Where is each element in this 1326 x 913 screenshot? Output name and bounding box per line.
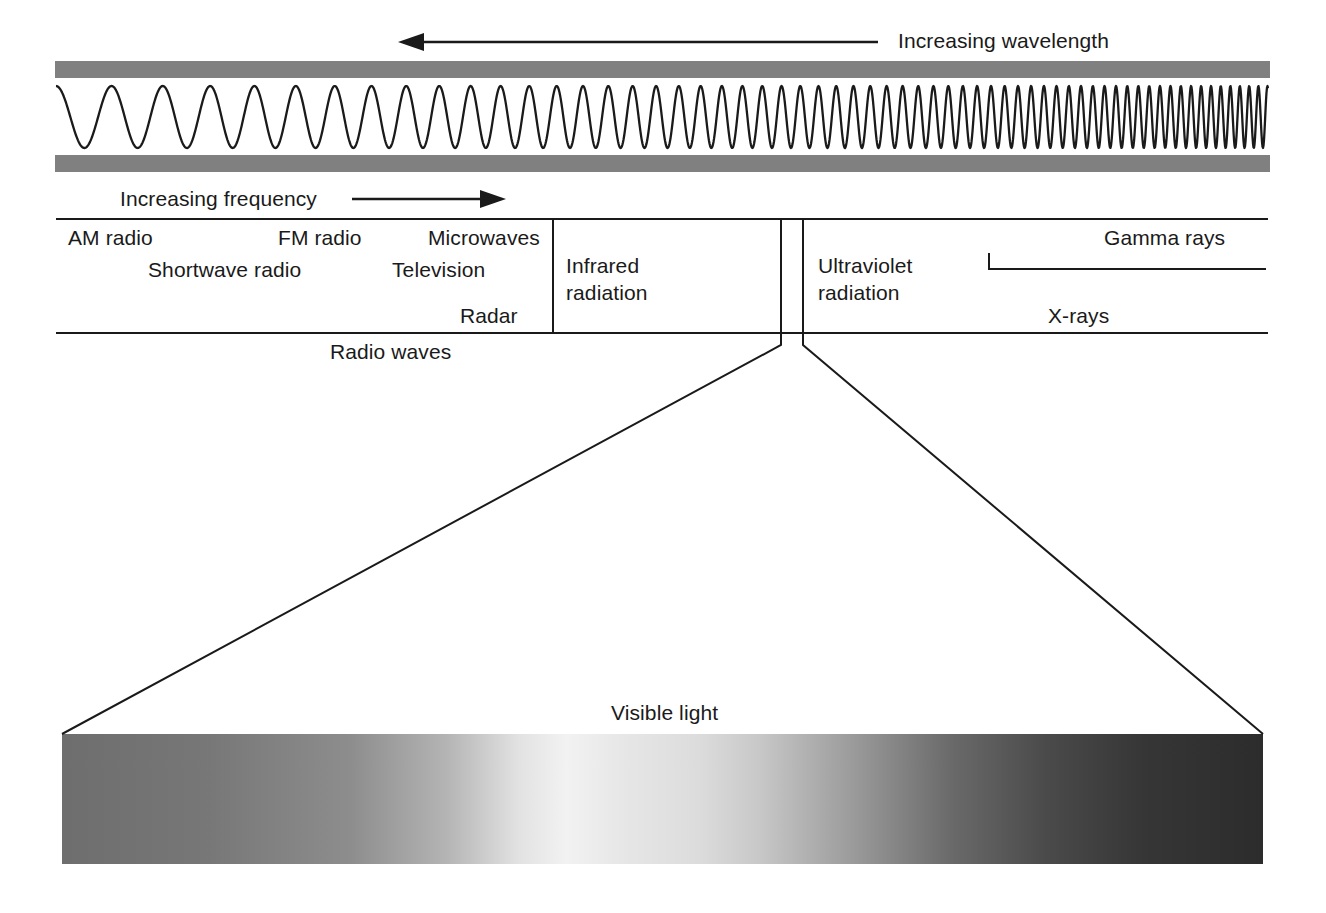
band-label-television: Television bbox=[392, 257, 485, 283]
band-label-x-rays: X-rays bbox=[1048, 303, 1109, 329]
em-spectrum-figure: Increasing wavelength Increasing frequen… bbox=[0, 0, 1326, 913]
band-label-infrared-radiation: Infraredradiation bbox=[566, 252, 716, 306]
band-label-fm-radio: FM radio bbox=[278, 225, 362, 251]
electromagnetic-wave-curve bbox=[56, 86, 1268, 148]
infrared-line2: radiation bbox=[566, 281, 647, 304]
ultraviolet-line2: radiation bbox=[818, 281, 899, 304]
ultraviolet-line1: Ultraviolet bbox=[818, 254, 912, 277]
band-label-radar: Radar bbox=[460, 303, 518, 329]
visible-light-label: Visible light bbox=[611, 700, 718, 726]
band-label-radio-waves: Radio waves bbox=[330, 339, 451, 365]
diagram-vector-layer bbox=[0, 0, 1326, 913]
increasing-wavelength-arrow bbox=[398, 33, 878, 51]
band-label-ultraviolet-radiation: Ultravioletradiation bbox=[818, 252, 978, 306]
gamma-rays-bracket bbox=[989, 253, 1266, 269]
band-label-am-radio: AM radio bbox=[68, 225, 153, 251]
increasing-frequency-arrow bbox=[352, 190, 506, 208]
band-label-gamma-rays: Gamma rays bbox=[1104, 225, 1225, 251]
increasing-frequency-label: Increasing frequency bbox=[120, 186, 317, 212]
band-label-shortwave-radio: Shortwave radio bbox=[148, 257, 301, 283]
band-label-microwaves: Microwaves bbox=[428, 225, 540, 251]
infrared-line1: Infrared bbox=[566, 254, 639, 277]
increasing-wavelength-label: Increasing wavelength bbox=[898, 28, 1109, 54]
